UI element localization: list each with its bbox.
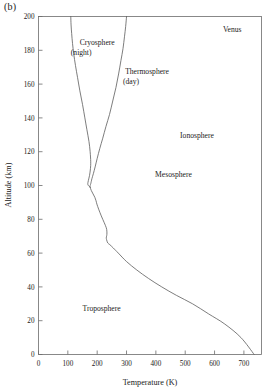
region-label-troposphere: Troposphere [83,304,122,313]
y-tick-label: 180 [24,47,35,55]
y-tick-label: 0 [31,351,35,359]
x-axis-title: Temperature (K) [123,378,178,387]
y-axis-ticks [39,17,43,355]
y-tick-label: 40 [27,284,35,292]
x-tick-label: 700 [239,360,250,368]
y-tick-label: 160 [24,81,35,89]
x-tick-label: 0 [37,360,41,368]
chart-svg: 0100200300400500600700 02040608010012014… [0,0,274,389]
y-axis-tick-labels: 020406080100120140160180200 [24,13,35,359]
region-sublabel-cryosphere: (night) [71,48,92,57]
x-tick-label: 600 [209,360,220,368]
y-tick-label: 140 [24,115,35,123]
x-tick-label: 300 [121,360,132,368]
x-tick-label: 200 [92,360,103,368]
x-tick-label: 400 [150,360,161,368]
x-axis-ticks [39,351,244,355]
region-sublabel-thermosphere: (day) [123,77,139,86]
region-label-thermosphere: Thermosphere [125,67,169,76]
venus-temperature-profile-figure: (b) 0100200300400500600700 0204060801001… [0,0,274,389]
region-label-mesosphere: Mesosphere [155,170,192,179]
region-annotations: Cryosphere(night)Thermosphere(day)VenusI… [71,25,242,313]
region-label-cryosphere: Cryosphere [80,38,116,47]
x-tick-label: 500 [180,360,191,368]
y-tick-label: 200 [24,13,35,21]
y-tick-label: 20 [27,317,35,325]
profile-curve [90,187,254,354]
region-label-venus: Venus [223,25,242,34]
y-axis-title: Altitude (km) [4,162,13,207]
y-tick-label: 120 [24,148,35,156]
y-tick-label: 80 [27,216,35,224]
region-label-ionosphere: Ionosphere [180,131,214,140]
x-axis-tick-labels: 0100200300400500600700 [37,360,250,368]
x-tick-label: 100 [62,360,73,368]
y-tick-label: 100 [24,182,35,190]
y-tick-label: 60 [27,250,35,258]
